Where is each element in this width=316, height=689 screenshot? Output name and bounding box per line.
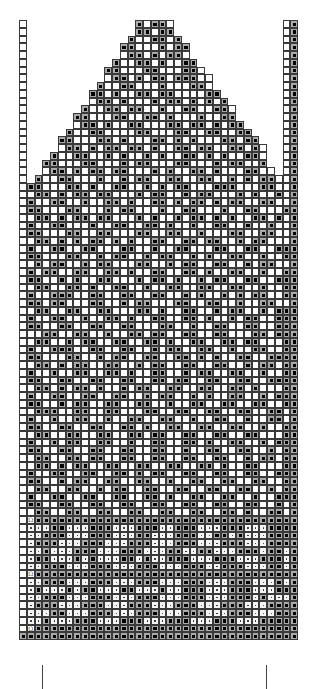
contrast-stitch-cell — [182, 129, 190, 137]
contrast-stitch-cell — [143, 299, 151, 307]
contrast-stitch-cell — [35, 338, 43, 346]
plain-stitch-cell — [73, 222, 81, 230]
plain-stitch-cell — [205, 415, 213, 423]
plain-stitch-cell — [73, 129, 81, 137]
plain-stitch-cell — [182, 82, 190, 90]
contrast-stitch-cell — [159, 268, 167, 276]
contrast-stitch-cell — [27, 392, 35, 400]
plain-stitch-cell — [236, 315, 244, 323]
plain-stitch-cell — [128, 400, 136, 408]
contrast-stitch-cell — [197, 369, 205, 377]
plain-stitch-cell — [205, 183, 213, 191]
plain-stitch-cell — [143, 330, 151, 338]
contrast-stitch-cell — [259, 198, 267, 206]
plain-stitch-cell — [159, 346, 167, 354]
contrast-stitch-cell — [236, 485, 244, 493]
contrast-stitch-cell — [66, 291, 74, 299]
contrast-stitch-cell — [252, 400, 260, 408]
contrast-stitch-cell — [283, 609, 291, 617]
plain-stitch-cell — [197, 322, 205, 330]
plain-stitch-cell — [267, 462, 275, 470]
plain-stitch-cell — [244, 214, 252, 222]
plain-stitch-cell — [97, 493, 105, 501]
plain-stitch-cell — [221, 423, 229, 431]
contrast-stitch-cell — [236, 586, 244, 594]
plain-stitch-cell — [221, 346, 229, 354]
plain-stitch-cell — [151, 392, 159, 400]
plain-stitch-cell — [42, 315, 50, 323]
plain-stitch-cell — [221, 268, 229, 276]
contrast-stitch-cell — [135, 361, 143, 369]
plain-stitch-cell — [174, 82, 182, 90]
contrast-stitch-cell — [213, 532, 221, 540]
contrast-stitch-cell — [182, 601, 190, 609]
contrast-stitch-cell — [128, 377, 136, 385]
contrast-stitch-cell — [205, 485, 213, 493]
plain-stitch-cell — [128, 307, 136, 315]
plain-stitch-cell — [228, 206, 236, 214]
contrast-stitch-cell — [190, 532, 198, 540]
plain-stitch-cell — [166, 74, 174, 82]
contrast-stitch-cell — [135, 415, 143, 423]
contrast-stitch-cell — [89, 609, 97, 617]
contrast-stitch-cell — [73, 617, 81, 625]
contrast-stitch-cell — [190, 508, 198, 516]
contrast-stitch-cell — [159, 586, 167, 594]
plain-stitch-cell — [19, 501, 27, 509]
contrast-stitch-cell — [120, 98, 128, 106]
contrast-stitch-cell — [128, 547, 136, 555]
contrast-stitch-cell — [236, 532, 244, 540]
contrast-stitch-cell — [259, 160, 267, 168]
contrast-stitch-cell — [166, 632, 174, 640]
plain-stitch-cell — [97, 152, 105, 160]
plain-stitch-cell — [89, 485, 97, 493]
contrast-stitch-cell — [120, 353, 128, 361]
contrast-stitch-cell — [290, 477, 298, 485]
plain-stitch-cell — [42, 183, 50, 191]
contrast-stitch-cell — [213, 90, 221, 98]
plain-stitch-cell — [236, 152, 244, 160]
contrast-stitch-cell — [151, 563, 159, 571]
contrast-stitch-cell — [81, 214, 89, 222]
plain-stitch-cell — [205, 361, 213, 369]
plain-stitch-cell — [244, 191, 252, 199]
contrast-stitch-cell — [120, 183, 128, 191]
contrast-stitch-cell — [252, 245, 260, 253]
plain-stitch-cell — [259, 191, 267, 199]
contrast-stitch-cell — [290, 361, 298, 369]
dot-stitch-cell — [35, 524, 43, 532]
plain-stitch-cell — [27, 284, 35, 292]
plain-stitch-cell — [151, 477, 159, 485]
plain-stitch-cell — [151, 284, 159, 292]
contrast-stitch-cell — [244, 578, 252, 586]
contrast-stitch-cell — [205, 625, 213, 633]
plain-stitch-cell — [166, 299, 174, 307]
contrast-stitch-cell — [89, 446, 97, 454]
contrast-stitch-cell — [143, 408, 151, 416]
plain-stitch-cell — [112, 307, 120, 315]
contrast-stitch-cell — [97, 291, 105, 299]
plain-stitch-cell — [174, 439, 182, 447]
contrast-stitch-cell — [197, 547, 205, 555]
contrast-stitch-cell — [275, 508, 283, 516]
plain-stitch-cell — [190, 245, 198, 253]
contrast-stitch-cell — [42, 361, 50, 369]
dot-stitch-cell — [259, 609, 267, 617]
plain-stitch-cell — [135, 408, 143, 416]
plain-stitch-cell — [159, 113, 167, 121]
contrast-stitch-cell — [143, 59, 151, 67]
dot-stitch-cell — [252, 563, 260, 571]
contrast-stitch-cell — [81, 415, 89, 423]
contrast-stitch-cell — [283, 361, 291, 369]
contrast-stitch-cell — [213, 222, 221, 230]
contrast-stitch-cell — [151, 346, 159, 354]
plain-stitch-cell — [19, 175, 27, 183]
contrast-stitch-cell — [66, 253, 74, 261]
contrast-stitch-cell — [205, 570, 213, 578]
contrast-stitch-cell — [283, 477, 291, 485]
contrast-stitch-cell — [259, 625, 267, 633]
contrast-stitch-cell — [81, 268, 89, 276]
plain-stitch-cell — [97, 330, 105, 338]
plain-stitch-cell — [275, 253, 283, 261]
plain-stitch-cell — [205, 206, 213, 214]
